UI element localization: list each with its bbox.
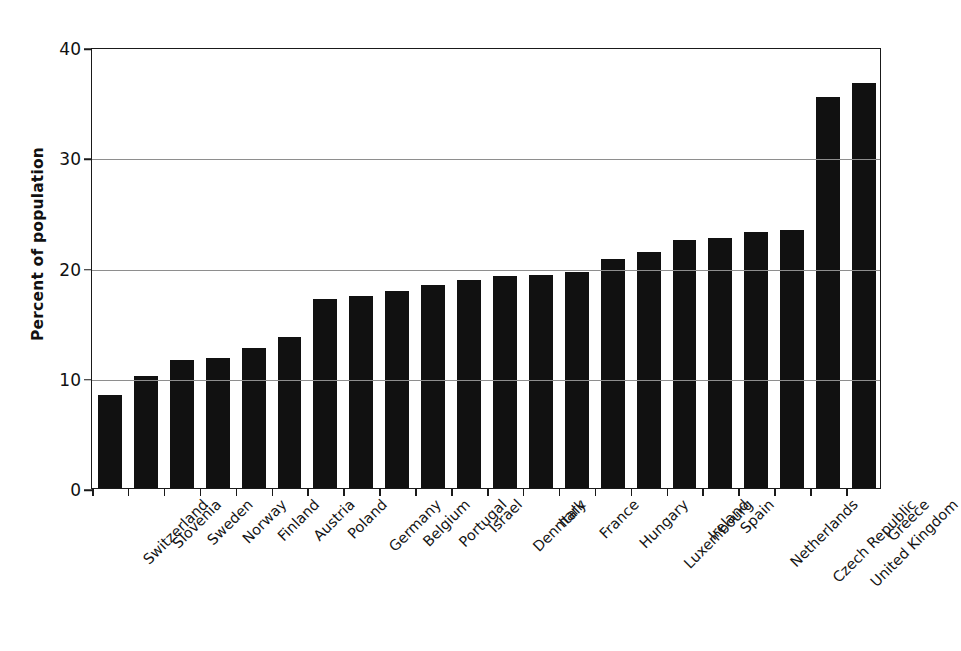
bar [816,97,840,488]
x-tick-mark [92,488,94,496]
x-axis-category-labels: SwitzerlandSloveniaSwedenNorwayFinlandAu… [91,497,881,651]
bar [529,275,553,488]
bars-layer [92,49,880,488]
gridline-y-10 [92,380,880,381]
bar [98,395,122,488]
x-tick-mark [415,488,417,496]
x-tick-mark [846,488,848,496]
x-tick-mark [200,488,202,496]
y-tick-label: 10 [59,371,81,388]
x-tick-mark [343,488,345,496]
x-axis-label-text: Italy [556,497,589,530]
bar [673,240,697,488]
x-tick-mark [487,488,489,496]
x-tick-mark [236,488,238,496]
bar [242,348,266,488]
x-tick-mark [523,488,525,496]
bar [457,280,481,488]
bar [637,252,661,488]
x-tick-mark [667,488,669,496]
x-tick-mark [595,488,597,496]
x-axis-label: Italy [556,497,589,530]
bar [206,358,230,488]
bar [134,376,158,488]
x-tick-mark [128,488,130,496]
x-tick-mark [774,488,776,496]
x-tick-mark [702,488,704,496]
bar [852,83,876,488]
plot-area: 010203040 [91,48,881,489]
y-tick-mark [84,379,92,381]
y-tick-label: 20 [59,261,81,278]
x-axis-label: Hungary [637,497,691,551]
x-axis-label-text: France [597,497,641,541]
x-tick-mark [307,488,309,496]
gridline-y-20 [92,270,880,271]
x-axis-label: France [597,497,641,541]
x-tick-mark [379,488,381,496]
bar [421,285,445,488]
bar [601,259,625,488]
bar [744,232,768,488]
x-tick-mark [451,488,453,496]
x-axis-label-text: Hungary [637,497,691,551]
x-tick-mark [164,488,166,496]
y-tick-label: 0 [70,482,81,499]
y-tick-mark [84,159,92,161]
bar [349,296,373,488]
y-tick-mark [84,489,92,491]
y-tick-mark [84,269,92,271]
y-axis-title: Percent of population [29,114,47,374]
bar [708,238,732,488]
bar [385,291,409,488]
x-tick-mark [631,488,633,496]
x-tick-mark [559,488,561,496]
y-tick-label: 30 [59,151,81,168]
x-tick-mark [272,488,274,496]
x-tick-mark [810,488,812,496]
gridline-y-30 [92,159,880,160]
y-tick-label: 40 [59,41,81,58]
bar [278,337,302,488]
x-tick-mark [738,488,740,496]
bar [313,299,337,488]
y-tick-mark [84,48,92,50]
bar [493,276,517,488]
